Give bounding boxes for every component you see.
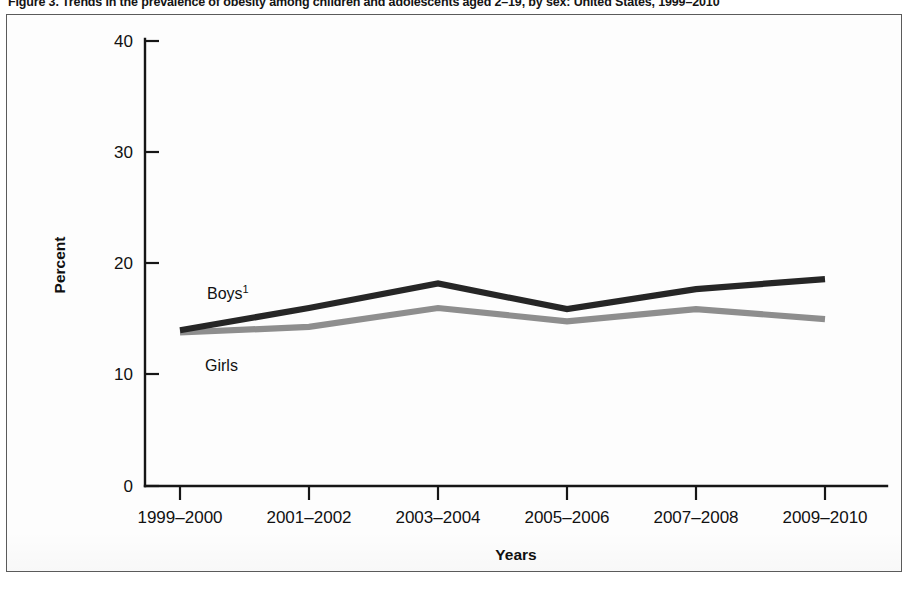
- series-annotation-girls: Girls: [205, 357, 238, 374]
- line-chart: 40 30 20 10 0 Percent 1999–2000 2001–200…: [7, 15, 901, 571]
- y-tick-label-10: 10: [114, 365, 133, 384]
- x-tick-label-0: 1999–2000: [137, 508, 222, 527]
- x-tick-label-1: 2001–2002: [266, 508, 351, 527]
- series-annotation-boys-text: Boys: [207, 285, 243, 302]
- figure-frame: 40 30 20 10 0 Percent 1999–2000 2001–200…: [6, 14, 902, 572]
- y-tick-label-0: 0: [124, 477, 133, 496]
- x-tick-label-2: 2003–2004: [395, 508, 480, 527]
- figure-caption: Figure 3. Trends in the prevalence of ob…: [8, 0, 906, 9]
- x-tick-label-5: 2009–2010: [782, 508, 867, 527]
- y-tick-label-40: 40: [114, 32, 133, 51]
- y-tick-label-20: 20: [114, 254, 133, 273]
- y-axis-title: Percent: [51, 237, 68, 294]
- x-axis-title: Years: [495, 546, 536, 563]
- y-axis-ticks: 40 30 20 10 0: [114, 32, 159, 496]
- x-tick-label-3: 2005–2006: [524, 508, 609, 527]
- series-annotation-boys: Boys1: [207, 283, 249, 302]
- series-annotation-boys-superscript: 1: [243, 283, 249, 295]
- series-annotation-girls-text: Girls: [205, 357, 238, 374]
- x-tick-label-4: 2007–2008: [653, 508, 738, 527]
- x-axis-ticks: 1999–2000 2001–2002 2003–2004 2005–2006 …: [137, 486, 867, 527]
- y-tick-label-30: 30: [114, 143, 133, 162]
- series-line-boys: [180, 279, 825, 330]
